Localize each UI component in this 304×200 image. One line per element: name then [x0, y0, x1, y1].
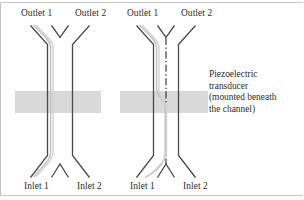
- label-outlet-1-left: Outlet 1: [21, 8, 52, 18]
- transducer-caption-line-3: (mounted beneath: [209, 92, 303, 104]
- transducer-caption-line-2: transducer: [209, 81, 303, 93]
- label-outlet-2-right: Outlet 2: [181, 8, 212, 18]
- transducer-caption-line-1: Piezoelectric: [209, 69, 303, 81]
- label-outlet-1-right: Outlet 1: [127, 8, 158, 18]
- transducer-bar-left: [15, 91, 101, 113]
- label-outlet-2-left: Outlet 2: [75, 8, 106, 18]
- transducer-caption: Piezoelectric transducer (mounted beneat…: [209, 69, 303, 115]
- junction-vee-top-right: [158, 26, 175, 38]
- junction-vee-bottom-left: [52, 164, 69, 178]
- figure-container: Outlet 1 Outlet 2 Inlet 1 Inlet 2 Outlet…: [0, 0, 304, 200]
- panel-left: [15, 25, 101, 178]
- label-inlet-1-right: Inlet 1: [130, 181, 155, 191]
- transducer-caption-line-4: the channel): [209, 104, 303, 116]
- junction-vee-top-left: [52, 26, 69, 38]
- label-inlet-2-left: Inlet 2: [77, 181, 102, 191]
- panel-right: [120, 25, 208, 178]
- label-inlet-1-left: Inlet 1: [24, 181, 49, 191]
- label-inlet-2-right: Inlet 2: [183, 181, 208, 191]
